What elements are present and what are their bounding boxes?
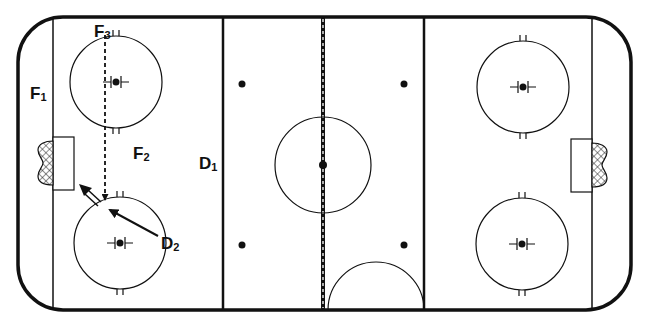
player-label-f1: F1 [30,85,47,102]
neutral-dot [239,81,246,88]
hockey-rink-diagram [0,0,647,328]
neutral-dot [401,81,408,88]
player-label-d2: D2 [161,235,179,252]
player-label-f2: F2 [133,145,150,162]
neutral-dot [239,242,246,249]
player-label-d1: D1 [199,155,217,172]
neutral-dot [401,242,408,249]
right-goal-crease [571,139,592,192]
left-goal-crease [53,137,74,190]
center-dot [319,161,327,169]
player-label-f3: F3 [94,23,111,40]
